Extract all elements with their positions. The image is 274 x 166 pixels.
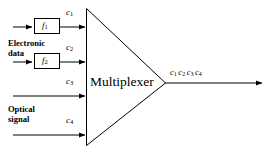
output-channel-4: c4: [195, 67, 202, 77]
output-channel-3: c3: [187, 67, 194, 77]
block-f1-subscript: 1: [45, 23, 48, 30]
output-channels-label: c1c2c3c4: [170, 68, 203, 77]
optical-signal-label: Optical signal: [8, 104, 35, 124]
output-channel-1: c1: [170, 67, 177, 77]
electronic-data-label: Electronic data: [8, 38, 45, 58]
block-f2-subscript: 2: [45, 58, 48, 65]
channel-label-c4: c4: [66, 116, 73, 126]
electronic-data-label-line2: data: [8, 48, 45, 58]
channel-c1-subscript: 1: [70, 10, 73, 17]
multiplexer-label: Multiplexer: [90, 75, 154, 89]
channel-c3-subscript: 3: [70, 79, 73, 86]
block-f1-label: f1: [42, 21, 48, 31]
multiplexer-diagram: f1 f2 c1 c2 c3 c4 Electronic data Optica…: [0, 0, 274, 166]
channel-label-c2: c2: [66, 43, 73, 53]
channel-label-c1: c1: [66, 8, 73, 18]
channel-c4-subscript: 4: [70, 118, 73, 125]
optical-signal-label-line1: Optical: [8, 104, 35, 114]
electronic-data-label-line1: Electronic: [8, 38, 45, 48]
channel-c2-subscript: 2: [70, 45, 73, 52]
optical-signal-label-line2: signal: [8, 114, 35, 124]
channel-label-c3: c3: [66, 77, 73, 87]
output-channel-2: c2: [178, 67, 185, 77]
